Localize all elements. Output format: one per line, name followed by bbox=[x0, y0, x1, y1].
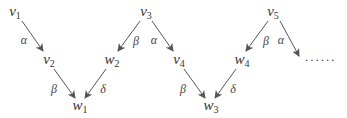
edge-label-w4-w3: δ bbox=[230, 82, 236, 97]
quiver-diagram: v1 v2 w1 w2 v3 v4 w3 w4 v5 α β δ β α β δ… bbox=[0, 0, 347, 118]
edge-label-v4-w3: β bbox=[180, 82, 186, 97]
node-v3: v3 bbox=[140, 3, 152, 21]
node-v1: v1 bbox=[9, 3, 21, 21]
edge-label-v1-v2: α bbox=[21, 33, 27, 48]
arrow-v2-w1 bbox=[54, 69, 75, 98]
edge-label-v5-w4: β bbox=[263, 34, 269, 49]
arrow-v4-w3 bbox=[184, 69, 205, 98]
node-w1: w1 bbox=[72, 97, 87, 115]
edge-label-v5-continuation: α bbox=[278, 33, 284, 48]
edge-label-v3-v4: α bbox=[151, 33, 157, 48]
edge-label-w2-w1: δ bbox=[100, 82, 106, 97]
edge-label-v2-w1: β bbox=[51, 82, 57, 97]
node-w3: w3 bbox=[203, 97, 218, 115]
node-w4: w4 bbox=[234, 51, 249, 69]
node-v4: v4 bbox=[173, 51, 185, 69]
node-w2: w2 bbox=[104, 51, 119, 69]
edge-label-v3-w2: β bbox=[133, 34, 139, 49]
node-v5: v5 bbox=[267, 3, 279, 21]
continuation-ellipsis: ...... bbox=[305, 49, 337, 65]
node-v2: v2 bbox=[43, 51, 55, 69]
